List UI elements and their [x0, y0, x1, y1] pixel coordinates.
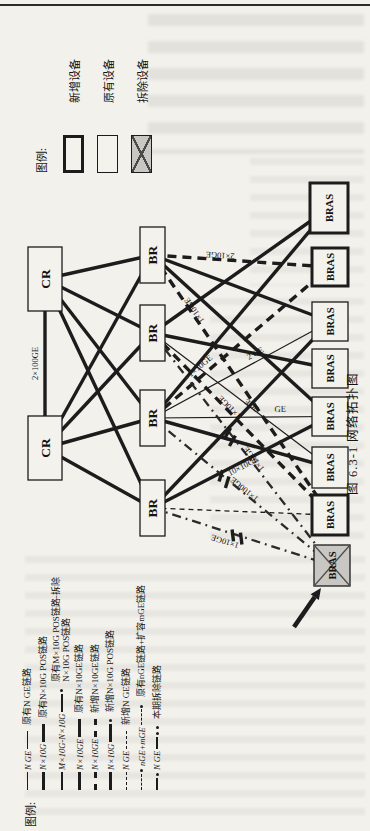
legend-inline-label: N×10G: [38, 744, 48, 770]
rotated-figure: CRCRBRBRBRBRBRASBRASBRASBRASBRASBRASBRAS…: [0, 0, 370, 831]
legend-inline-label: N×10G: [106, 744, 116, 770]
device-legend-label: 原有设备: [100, 59, 116, 103]
dismantle-arrow: [294, 597, 315, 627]
link-label: 2×100GE: [30, 347, 40, 380]
legend-inline-label: N GE: [121, 751, 131, 770]
removed-link-cut-mark: [225, 476, 229, 487]
node-label-BR4: BR: [145, 498, 160, 517]
legend-inline-label: N GE: [23, 751, 33, 770]
legend-description: 原有N GE链路: [23, 668, 33, 725]
device-legend-label: 新增设备: [66, 59, 82, 103]
legend-description: 新增N×10GE链路: [91, 644, 101, 713]
legend-inline-label: N GE: [152, 751, 162, 770]
legend-line-segment: [109, 724, 112, 742]
link-label: 1×100GE: [228, 475, 260, 504]
device-legend-row: 拆除设备: [131, 59, 152, 173]
legend-line-segment: [126, 772, 127, 790]
legend-dot: [156, 774, 159, 777]
node-label-BRAS8: BRAS: [327, 551, 338, 579]
node-label-BRAS5: BRAS: [325, 402, 336, 430]
legend-description: 原有N×10G POS链路: [39, 636, 49, 718]
legend-line-segment: [61, 772, 63, 790]
legend-line-segment: [42, 724, 45, 742]
marks-layer: [219, 428, 321, 627]
legend-row: N×10G新增N×10G POS链路: [103, 612, 119, 790]
removed-device-box-icon: [131, 135, 152, 173]
node-label-BRAS2: BRAS: [325, 253, 336, 281]
node-label-BRAS1: BRAS: [324, 194, 335, 222]
legend-line-segment: [78, 719, 81, 737]
legend-line-segment: [94, 772, 97, 790]
link-BR2-BRAS6: [153, 333, 331, 468]
legend-line-segment: [27, 772, 28, 790]
legend-inline-label: N×10GE: [75, 739, 85, 770]
legend-dot: [60, 689, 63, 692]
legend-row: N GE新增N GE链路: [119, 612, 135, 790]
legend-description: 新增N GE链路: [122, 668, 132, 725]
legend-line-segment: [27, 731, 28, 749]
device-legend-label: 拆除设备: [134, 59, 150, 103]
legend-dot: [140, 770, 143, 773]
link-legend-title: 图例:: [22, 802, 38, 827]
legend-line-segment: [156, 778, 158, 790]
legend-description-line: N×10G POS链路: [62, 577, 72, 681]
device-box-icon: [97, 135, 118, 173]
legend-dot: [140, 705, 143, 708]
link-type-legend: 图例: N GE原有N GE链路N×10G原有N×10G POS链路M×10G-…: [20, 612, 165, 827]
legend-dot: [156, 732, 159, 735]
legend-inline-label: nGE+mGE: [137, 727, 147, 766]
device-legend: 图例: 新增设备原有设备拆除设备: [32, 59, 152, 173]
node-label-BRAS4: BRAS: [325, 354, 336, 382]
node-label-BR3: BR: [145, 408, 160, 427]
link-legend-rows: N GE原有N GE链路N×10G原有N×10G POS链路M×10G-N×10…: [20, 612, 165, 790]
device-legend-row: 原有设备: [97, 59, 118, 173]
legend-row: nGE+mGE原有nGE链路+扩容mGE链路: [134, 612, 150, 790]
node-label-CR_L: CR: [38, 438, 53, 458]
node-label-BR1: BR: [145, 245, 160, 264]
legend-row: N GE本期拆除链路: [150, 612, 166, 790]
legend-row: N GE原有N GE链路: [20, 612, 36, 790]
legend-line-segment: [78, 772, 81, 790]
legend-line-segment: [156, 737, 158, 749]
legend-description: 新增N×10G POS链路: [106, 630, 116, 712]
links-layer: [45, 208, 332, 566]
link-BR4-BRAS7: [153, 508, 331, 515]
device-legend-rows: 新增设备原有设备拆除设备: [63, 59, 152, 173]
scanned-page: CRCRBRBRBRBRBRASBRASBRASBRASBRASBRASBRAS…: [0, 0, 370, 831]
legend-line-segment: [109, 772, 112, 790]
legend-inline-label: N×10GE: [90, 739, 100, 770]
device-box-icon: [63, 135, 84, 173]
legend-dot: [109, 719, 112, 722]
legend-line-segment: [141, 774, 142, 790]
legend-row: M×10G-N×10G原有M×10G POS链路-拆除N×10G POS链路: [51, 612, 72, 790]
node-label-BRAS6: BRAS: [325, 453, 336, 481]
link-label: 2 GE: [245, 344, 265, 361]
device-legend-row: 新增设备: [63, 59, 84, 173]
legend-line-segment: [126, 731, 127, 749]
device-legend-title: 图例:: [36, 148, 48, 173]
legend-row: N×10G原有N×10G POS链路: [36, 612, 52, 790]
node-label-CR_R: CR: [38, 269, 53, 289]
link-label: GE: [275, 404, 286, 414]
legend-description: 原有nGE链路+扩容mGE链路: [137, 585, 147, 698]
legend-dot: [156, 726, 159, 729]
legend-description: 原有N×10GE链路: [75, 644, 85, 713]
legend-line-segment: [42, 772, 45, 790]
legend-line-segment: [141, 709, 142, 725]
link-label: 1×10GE: [186, 353, 214, 379]
node-label-BRAS3: BRAS: [325, 307, 336, 335]
legend-description: 原有M×10G POS链路-拆除N×10G POS链路: [52, 577, 71, 681]
legend-row: N×10GE原有N×10GE链路: [72, 612, 88, 790]
legend-line-segment: [94, 719, 97, 737]
node-label-BRAS7: BRAS: [325, 501, 336, 529]
link-label: 2×10GE: [205, 250, 234, 262]
legend-description: 本期拆除链路: [153, 665, 163, 719]
legend-row: N×10GE新增N×10GE链路: [88, 612, 104, 790]
figure-caption: 图 6.3-1 网络拓扑图: [342, 275, 361, 495]
legend-line-segment: [61, 694, 63, 712]
node-label-BR2: BR: [145, 323, 160, 342]
legend-inline-label: M×10G-N×10G: [57, 714, 67, 770]
